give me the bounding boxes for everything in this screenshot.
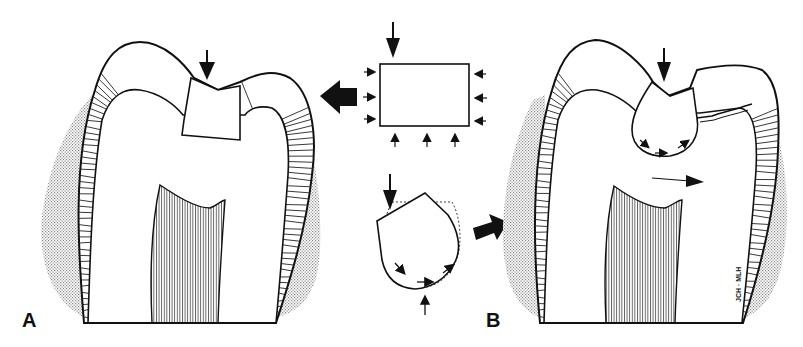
big-arrow-right-icon [473, 214, 508, 240]
panel-b-tooth: B JCH · MLH [486, 40, 787, 331]
enamel-rod [286, 205, 308, 206]
stress-rectangle [380, 64, 469, 126]
enamel-rod [536, 271, 546, 272]
panel-a-label: A [22, 309, 36, 331]
enamel-rod [748, 262, 760, 263]
dental-diagram: A [0, 0, 803, 347]
big-arrow-left-icon [320, 80, 357, 114]
enamel-rod [284, 229, 303, 230]
center-rect-diagram [363, 22, 487, 147]
center-teardrop-diagram [377, 174, 460, 315]
panel-a-inlay [182, 78, 240, 140]
enamel-rod [80, 169, 95, 170]
panel-a-tooth: A [22, 42, 320, 331]
panel-a-pulp-canal [151, 185, 225, 323]
panel-b-label: B [486, 309, 500, 331]
panel-b-load-arrow-icon [657, 48, 671, 82]
panel-a-load-arrow-icon [199, 50, 215, 80]
rect-top-load-arrow-icon [386, 22, 400, 58]
teardrop-load-arrow-icon [383, 174, 397, 210]
artist-signature: JCH · MLH [735, 267, 742, 302]
panel-b-pulp-canal [605, 186, 682, 323]
